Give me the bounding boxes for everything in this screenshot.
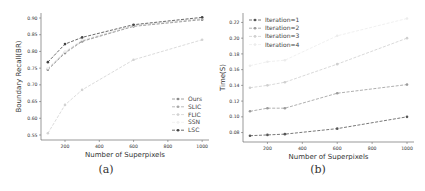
- legend-label: Iteration=1: [265, 16, 299, 23]
- series-line: [48, 18, 202, 68]
- series-iteration-1: [249, 116, 409, 137]
- data-point: [266, 107, 269, 110]
- caption-b: (b): [212, 163, 424, 176]
- data-point: [266, 84, 269, 87]
- y-tick-label: 0.12: [229, 99, 239, 104]
- x-tick-label: 800: [368, 146, 377, 151]
- data-point: [132, 58, 135, 61]
- data-point: [47, 61, 50, 64]
- series-line: [48, 17, 202, 62]
- series-line: [48, 40, 202, 134]
- data-point: [132, 23, 135, 26]
- data-point: [406, 83, 409, 86]
- legend-marker: [177, 113, 180, 116]
- data-point: [81, 89, 84, 92]
- runtime-chart: 0.080.100.120.140.160.180.200.2220040060…: [212, 0, 424, 160]
- y-tick-label: 0.65: [27, 99, 37, 104]
- x-tick-label: 400: [95, 144, 104, 149]
- series-slic: [47, 17, 204, 70]
- data-point: [249, 86, 252, 89]
- data-point: [266, 134, 269, 137]
- x-tick-label: 200: [263, 146, 272, 151]
- x-axis-label: Number of Superpixels: [288, 153, 368, 160]
- legend-marker: [254, 19, 257, 22]
- data-point: [64, 43, 67, 46]
- legend-marker: [254, 35, 257, 38]
- legend-label: SSN: [188, 118, 200, 125]
- legend: OursSLICFLICSSNLSC: [172, 95, 202, 133]
- y-tick-label: 0.75: [27, 66, 37, 71]
- series-iteration-2: [249, 83, 409, 112]
- data-point: [336, 63, 339, 66]
- series-lsc: [47, 16, 204, 63]
- data-point: [336, 35, 339, 38]
- legend-label: Iteration=2: [265, 24, 299, 31]
- boundary-recall-chart: 0.550.600.650.700.750.800.850.9020040060…: [0, 0, 212, 160]
- y-tick-label: 0.70: [27, 82, 37, 87]
- legend-marker: [177, 121, 180, 124]
- data-point: [406, 17, 409, 20]
- y-tick-label: 0.90: [27, 16, 37, 21]
- chart-panel-a: 0.550.600.650.700.750.800.850.9020040060…: [0, 0, 212, 191]
- data-point: [284, 133, 287, 136]
- series-ssn: [47, 17, 204, 70]
- legend-label: Ours: [188, 95, 202, 102]
- y-axis-label: Boundary Recall(BR): [15, 40, 23, 112]
- legend: Iteration=1Iteration=2Iteration=3Iterati…: [249, 16, 299, 48]
- series-line: [48, 19, 202, 69]
- series-ours: [47, 18, 204, 71]
- y-tick-label: 0.20: [229, 36, 239, 41]
- data-point: [47, 132, 50, 135]
- legend-marker: [177, 129, 180, 132]
- y-tick-label: 0.55: [27, 133, 37, 138]
- data-point: [336, 127, 339, 130]
- y-tick-label: 0.14: [229, 83, 239, 88]
- chart-panel-b: 0.080.100.120.140.160.180.200.2220040060…: [212, 0, 424, 191]
- y-tick-label: 0.85: [27, 32, 37, 37]
- x-tick-label: 200: [61, 144, 70, 149]
- legend-label: LSC: [188, 126, 199, 133]
- legend-marker: [177, 98, 180, 101]
- data-point: [266, 60, 269, 63]
- y-axis-label: Time(S): [219, 64, 227, 92]
- x-tick-label: 1000: [401, 146, 413, 151]
- data-point: [284, 81, 287, 84]
- legend-marker: [254, 27, 257, 30]
- y-tick-label: 0.08: [229, 130, 239, 135]
- data-point: [81, 38, 84, 41]
- x-tick-label: 600: [333, 146, 342, 151]
- data-point: [284, 59, 287, 62]
- data-point: [406, 37, 409, 40]
- legend-marker: [177, 106, 180, 109]
- legend-label: SLIC: [188, 103, 201, 110]
- series-line: [250, 85, 407, 112]
- data-point: [47, 67, 50, 70]
- data-point: [284, 107, 287, 110]
- y-tick-label: 0.80: [27, 49, 37, 54]
- x-tick-label: 400: [298, 146, 307, 151]
- y-tick-label: 0.18: [229, 52, 239, 57]
- x-axis-label: Number of Superpixels: [85, 151, 165, 159]
- y-tick-label: 0.22: [229, 20, 239, 25]
- legend-label: Iteration=3: [265, 32, 299, 39]
- data-point: [201, 38, 204, 41]
- data-point: [249, 134, 252, 137]
- data-point: [406, 116, 409, 119]
- y-tick-label: 0.60: [27, 116, 37, 121]
- caption-a: (a): [0, 163, 212, 176]
- data-point: [249, 64, 252, 67]
- series-line: [250, 117, 407, 136]
- data-point: [249, 110, 252, 113]
- legend-label: FLIC: [188, 111, 201, 118]
- y-tick-label: 0.10: [229, 114, 239, 119]
- legend-marker: [254, 43, 257, 46]
- x-tick-label: 800: [163, 144, 172, 149]
- data-point: [64, 50, 67, 53]
- data-point: [336, 92, 339, 95]
- data-point: [64, 104, 67, 107]
- x-tick-label: 1000: [196, 144, 208, 149]
- x-tick-label: 600: [129, 144, 138, 149]
- data-point: [201, 16, 204, 19]
- series-flic: [47, 38, 204, 134]
- y-tick-label: 0.16: [229, 67, 239, 72]
